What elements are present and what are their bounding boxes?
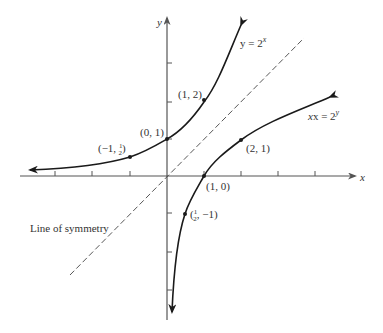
point-label-half-neg1: (12, −1) (190, 208, 218, 223)
y-axis-label: y (156, 16, 162, 28)
symmetry-line-label: Line of symmetry (30, 222, 109, 234)
logarithmic-curve (172, 97, 330, 312)
point-neg1-half (128, 155, 132, 159)
point-1-2 (202, 98, 206, 102)
point-0-1 (165, 137, 169, 141)
symmetry-line (70, 38, 304, 275)
point-1-0 (202, 174, 206, 178)
graph-canvas: x y y = 2x xx = 2y (1, 2) (0, 1) (−1, 12… (0, 0, 383, 333)
exponential-curve-label: y = 2x (240, 35, 267, 49)
logarithmic-curve-label: xx = 2y (307, 108, 340, 122)
point-label-neg1-half: (−1, 12) (98, 142, 126, 157)
point-2-1 (239, 138, 243, 142)
curve-points (128, 98, 243, 216)
x-axis-ticks (55, 171, 315, 176)
point-label-2-1: (2, 1) (246, 142, 270, 155)
x-axis-label: x (359, 171, 365, 183)
point-half-neg1 (183, 212, 187, 216)
exponential-curve (30, 25, 241, 170)
point-label-0-1: (0, 1) (140, 126, 164, 139)
point-label-1-0: (1, 0) (206, 180, 230, 193)
point-label-1-2: (1, 2) (178, 88, 202, 101)
